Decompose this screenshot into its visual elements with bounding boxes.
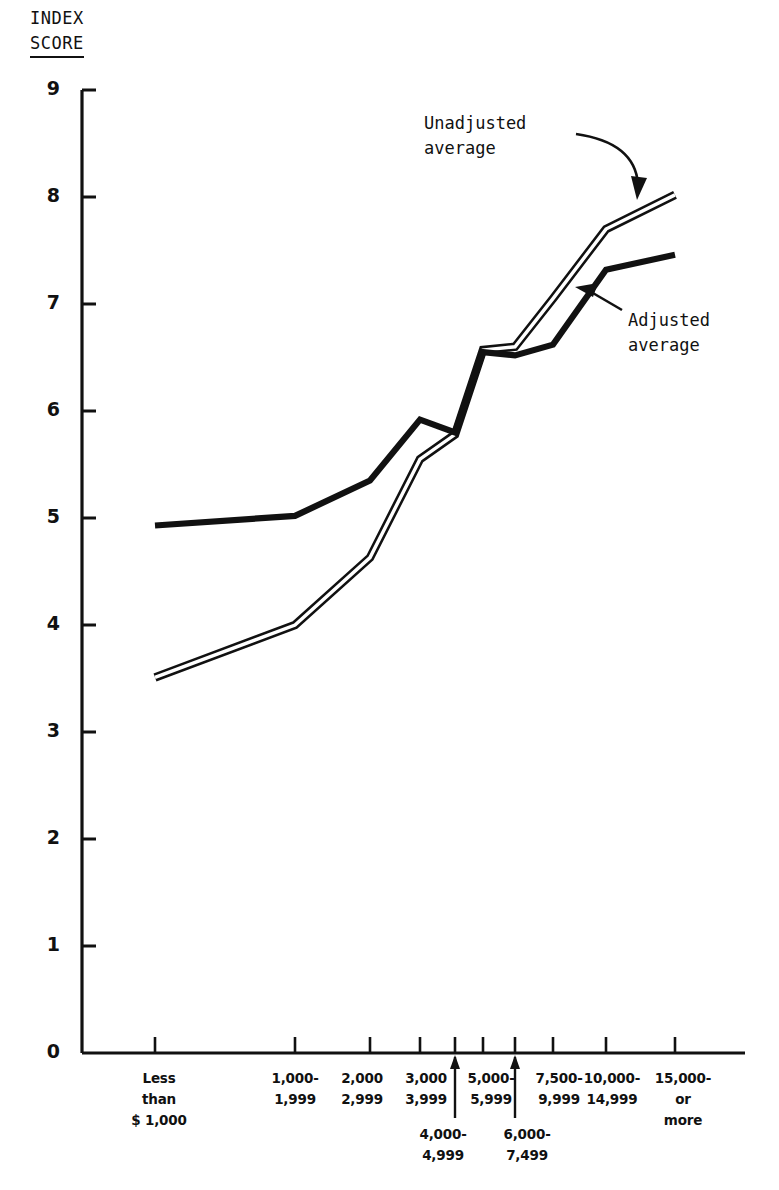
data-series-group [155,195,675,678]
category-pointer-arrowhead [450,1055,460,1069]
x-axis-tick-label: 6,000- 7,499 [481,1124,573,1166]
annotation-arrow-unadjusted-shaft [576,134,638,184]
x-axis-tick-label: 15,000- or more [637,1068,729,1131]
y-axis-tick-label: 9 [34,77,60,99]
y-axis-tick-label: 6 [34,398,60,420]
y-axis-tick-label: 3 [34,719,60,741]
y-axis-tick-label: 4 [34,612,60,634]
series-line-unadjusted-inner [155,195,675,678]
x-axis-tick-label: Less than $ 1,000 [113,1068,205,1131]
axes-group [82,90,745,1053]
x-axis-tick-label: 4,000- 4,999 [397,1124,489,1166]
category-pointer-arrowhead [510,1055,520,1069]
annotation-arrow-unadjusted-head [631,176,647,200]
series-line-unadjusted-outer [155,195,675,678]
y-axis-tick-label: 0 [34,1040,60,1062]
y-axis-tick-label: 1 [34,933,60,955]
y-axis-tick-label: 5 [34,505,60,527]
y-axis-tick-label: 2 [34,826,60,848]
annotation-adjusted-average: Adjusted average [628,308,710,357]
chart-canvas [0,0,779,1190]
y-axis-tick-label: 8 [34,184,60,206]
y-axis-tick-label: 7 [34,291,60,313]
chart-figure: INDEXSCORE 0123456789 Less than $ 1,0001… [0,0,779,1190]
annotation-unadjusted-average: Unadjusted average [424,111,526,160]
